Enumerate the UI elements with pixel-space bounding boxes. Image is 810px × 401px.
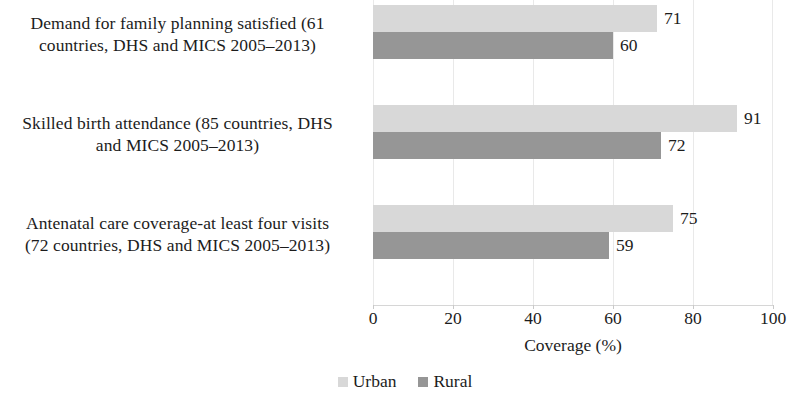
chart-figure: Demand for family planning satisfied (61… [0, 0, 810, 401]
category-label-skilled-birth-attendance: Skilled birth attendance (85 countries, … [0, 112, 355, 157]
x-tick-label-0: 0 [343, 308, 403, 329]
bar-rural-antenatal [373, 232, 609, 259]
category-label-line: countries, DHS and MICS 2005–2013) [0, 34, 355, 56]
chart-legend: Urban Rural [0, 371, 810, 392]
bar-urban-antenatal [373, 205, 673, 232]
gridline-80 [693, 0, 694, 305]
category-label-antenatal-care: Antenatal care coverage-at least four vi… [0, 212, 355, 257]
legend-entry-rural: Rural [418, 371, 472, 392]
bar-rural-skilled-birth [373, 132, 661, 159]
bar-urban-family-planning [373, 5, 657, 32]
value-rural-skilled-birth: 72 [668, 132, 686, 159]
legend-label-rural: Rural [433, 371, 472, 392]
bar-rural-family-planning [373, 32, 613, 59]
category-label-family-planning: Demand for family planning satisfied (61… [0, 12, 355, 57]
category-label-line: Antenatal care coverage-at least four vi… [0, 212, 355, 234]
category-label-line: Demand for family planning satisfied (61 [0, 12, 355, 34]
category-label-line: (72 countries, DHS and MICS 2005–2013) [0, 234, 355, 256]
legend-label-urban: Urban [353, 371, 397, 392]
x-axis-title: Coverage (%) [373, 335, 773, 356]
x-tick-label-100: 100 [743, 308, 803, 329]
x-tick-label-80: 80 [663, 308, 723, 329]
x-tick-label-20: 20 [423, 308, 483, 329]
value-urban-family-planning: 71 [664, 5, 682, 32]
value-rural-antenatal: 59 [616, 232, 634, 259]
value-rural-family-planning: 60 [620, 32, 638, 59]
legend-swatch-rural-icon [418, 377, 428, 387]
legend-swatch-urban-icon [338, 377, 348, 387]
category-label-line: and MICS 2005–2013) [0, 134, 355, 156]
legend-entry-urban: Urban [338, 371, 397, 392]
x-axis-line [373, 305, 774, 306]
value-urban-antenatal: 75 [680, 205, 698, 232]
x-tick-label-40: 40 [503, 308, 563, 329]
category-label-line: Skilled birth attendance (85 countries, … [0, 112, 355, 134]
plot-area: 71 60 91 72 75 59 [373, 0, 773, 305]
gridline-100 [772, 0, 773, 305]
value-urban-skilled-birth: 91 [744, 105, 762, 132]
bar-urban-skilled-birth [373, 105, 737, 132]
x-tick-label-60: 60 [583, 308, 643, 329]
